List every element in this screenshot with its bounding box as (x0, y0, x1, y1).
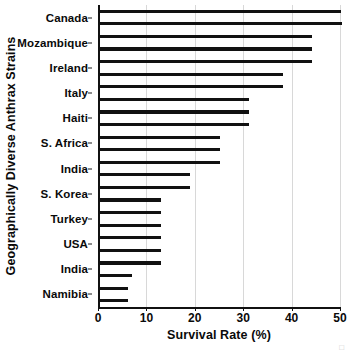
x-axis-title: Survival Rate (%) (98, 328, 340, 342)
y-tick-mark (88, 67, 92, 68)
y-axis-tick-label: Canada (46, 12, 88, 24)
y-axis-tick-labels: CanadaMozambiqueIrelandItalyHaitiS. Afri… (18, 0, 92, 307)
y-axis-tick-label: Mozambique (17, 37, 88, 49)
bar (98, 261, 161, 264)
bar (98, 161, 220, 164)
x-axis-tick-label: 20 (188, 311, 201, 325)
y-tick-mark (88, 244, 92, 245)
bar (98, 22, 342, 25)
bar (98, 123, 249, 126)
x-axis-tick-label: 50 (333, 311, 346, 325)
x-axis-tick-label: 10 (140, 311, 153, 325)
y-axis-tick-label: S. Korea (41, 188, 88, 200)
y-axis-tick-label: S. Africa (41, 137, 88, 149)
bar (98, 274, 132, 277)
bar (98, 211, 161, 214)
bar (98, 35, 312, 38)
scan-artifact: □ (339, 343, 344, 352)
bar (98, 299, 128, 302)
bar (98, 10, 341, 13)
y-axis-tick-label: Namibia (43, 288, 88, 300)
bar (98, 249, 161, 252)
bar (98, 47, 312, 50)
bar (98, 60, 312, 63)
y-tick-mark (88, 294, 92, 295)
y-tick-mark (88, 143, 92, 144)
y-axis-tick-label: India (61, 263, 88, 275)
x-axis-tick-label: 0 (95, 311, 102, 325)
bar (98, 186, 190, 189)
bar (98, 287, 128, 290)
y-tick-mark (88, 93, 92, 94)
y-tick-mark (88, 17, 92, 18)
y-axis-tick-label: India (61, 163, 88, 175)
y-tick-mark (88, 218, 92, 219)
bar-chart: Geographically Diverse Anthrax Strains C… (0, 0, 347, 353)
x-axis-tick-labels: 01020304050 (98, 311, 340, 327)
bar (98, 236, 161, 239)
y-axis-tick-label: Turkey (51, 213, 88, 225)
x-axis-tick-label: 30 (237, 311, 250, 325)
bar (98, 73, 283, 76)
x-axis-line (98, 307, 340, 309)
bar (98, 224, 161, 227)
y-tick-mark (88, 42, 92, 43)
y-axis-tick-label: Ireland (50, 62, 88, 74)
y-axis-tick-label: Haiti (63, 112, 88, 124)
bar (98, 110, 249, 113)
bar (98, 173, 190, 176)
bar (98, 198, 161, 201)
y-axis-tick-label: USA (63, 238, 88, 250)
x-axis-tick-label: 40 (285, 311, 298, 325)
y-tick-mark (88, 193, 92, 194)
y-tick-mark (88, 118, 92, 119)
bar (98, 148, 220, 151)
plot-area (98, 5, 340, 307)
y-tick-mark (88, 168, 92, 169)
y-tick-mark (88, 269, 92, 270)
gridline-x (340, 5, 341, 307)
bar (98, 85, 283, 88)
y-axis-title-text: Geographically Diverse Anthrax Strains (4, 37, 18, 276)
bar (98, 98, 249, 101)
y-axis-tick-label: Italy (64, 87, 88, 99)
bar (98, 136, 220, 139)
